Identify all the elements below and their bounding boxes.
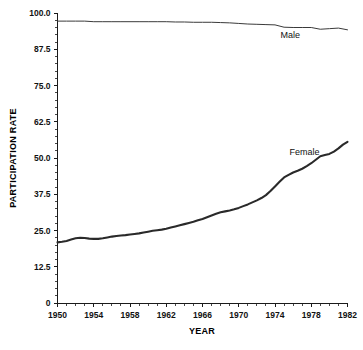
y-tick-label: 25.0 (34, 226, 51, 236)
x-tick-label: 1974 (266, 310, 285, 320)
x-axis-tick-labels: 195019541958196219661970197419781982 (48, 310, 357, 320)
x-tick-label: 1982 (338, 310, 357, 320)
x-tick-label: 1978 (302, 310, 321, 320)
series-label-male: Male (280, 30, 300, 40)
chart-figure: 012.525.037.550.062.575.087.5100.0 19501… (0, 0, 363, 350)
x-axis-title: YEAR (189, 326, 215, 336)
x-tick-label: 1970 (229, 310, 248, 320)
x-tick-label: 1962 (157, 310, 176, 320)
axes-group (58, 13, 348, 304)
x-tick-label: 1966 (193, 310, 212, 320)
y-tick-label: 87.5 (34, 44, 51, 54)
y-tick-label: 37.5 (34, 189, 51, 199)
y-tick-label: 12.5 (34, 262, 51, 272)
participation-rate-line-chart: 012.525.037.550.062.575.087.5100.0 19501… (0, 0, 363, 350)
y-tick-label: 62.5 (34, 117, 51, 127)
y-tick-label: 100.0 (29, 8, 51, 18)
x-tick-label: 1954 (84, 310, 103, 320)
y-tick-label: 75.0 (34, 81, 51, 91)
y-tick-label: 50.0 (34, 153, 51, 163)
y-tick-label: 0 (46, 298, 51, 308)
series-line-male (58, 21, 348, 30)
y-axis-title: PARTICIPATION RATE (8, 108, 18, 208)
x-tick-label: 1950 (48, 310, 67, 320)
x-tick-label: 1958 (121, 310, 140, 320)
y-axis-tick-labels: 012.525.037.550.062.575.087.5100.0 (29, 8, 51, 308)
series-label-female: Female (290, 147, 320, 157)
y-axis-ticks (54, 13, 58, 303)
